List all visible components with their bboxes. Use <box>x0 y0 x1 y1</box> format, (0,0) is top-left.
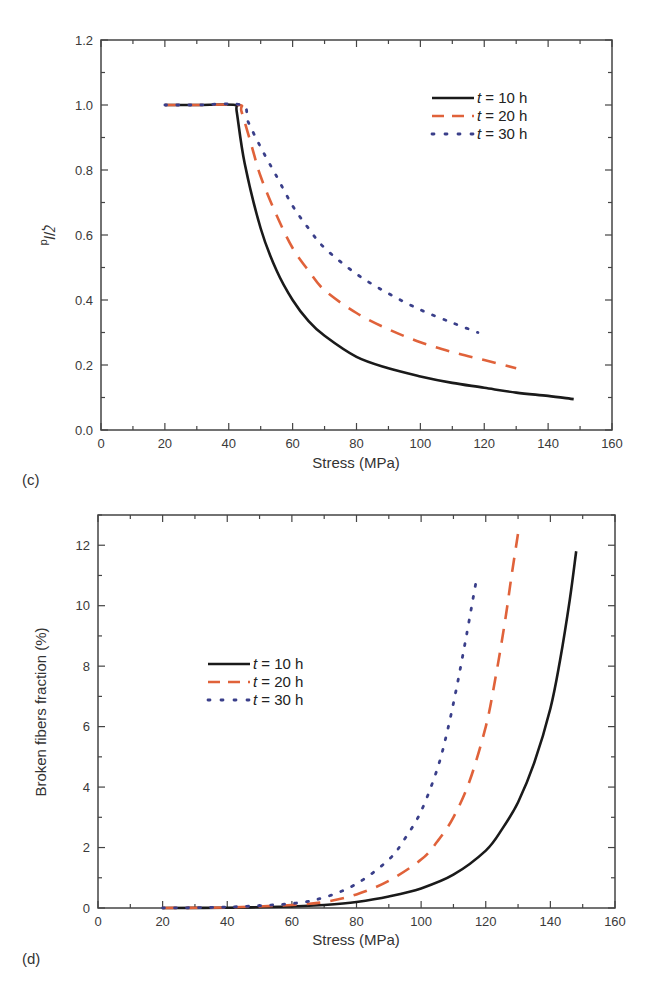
y-tick-label: 0.8 <box>75 163 93 178</box>
chart-d: 020406080100120140160 024681012 t = 10 h… <box>22 515 626 967</box>
series-t-10-h <box>163 551 577 908</box>
y-tick-label: 0.6 <box>75 228 93 243</box>
y-tick-label: 0.2 <box>75 358 93 373</box>
legend: t = 10 ht = 20 ht = 30 h <box>208 655 303 708</box>
plot-frame <box>101 40 612 430</box>
y-axis-ticks: 0.00.20.40.60.81.01.2 <box>75 33 612 438</box>
plot-frame <box>98 515 615 908</box>
x-tick-label: 160 <box>601 436 623 451</box>
figure: 020406080100120140160 0.00.20.40.60.81.0… <box>0 0 659 994</box>
y-tick-label: 4 <box>83 780 90 795</box>
x-tick-label: 0 <box>94 914 101 929</box>
series-lines <box>163 533 577 908</box>
series-t-30-h <box>163 582 477 909</box>
x-tick-label: 120 <box>475 914 497 929</box>
x-tick-label: 100 <box>410 914 432 929</box>
x-tick-label: 100 <box>410 436 432 451</box>
y-tick-label: 0 <box>83 901 90 916</box>
x-axis-title: Stress (MPa) <box>312 931 400 948</box>
legend-label: t = 20 h <box>477 107 527 124</box>
x-axis-title: Stress (MPa) <box>312 454 400 471</box>
x-tick-label: 80 <box>349 914 363 929</box>
y-tick-label: 2 <box>83 840 90 855</box>
y-tick-label: 0.0 <box>75 423 93 438</box>
chart-c: 020406080100120140160 0.00.20.40.60.81.0… <box>22 33 623 489</box>
series-t-20-h <box>165 105 516 369</box>
panel-label-d: (d) <box>22 950 40 967</box>
y-tick-label: 8 <box>83 659 90 674</box>
x-tick-label: 60 <box>285 914 299 929</box>
legend-label: t = 10 h <box>253 655 303 672</box>
x-tick-label: 80 <box>349 436 363 451</box>
legend-label: t = 20 h <box>253 673 303 690</box>
series-t-30-h <box>165 104 478 333</box>
y-axis-title: ζ/ld <box>39 225 58 246</box>
x-tick-label: 160 <box>604 914 626 929</box>
series-lines <box>165 104 574 399</box>
x-tick-label: 20 <box>155 914 169 929</box>
legend-label: t = 30 h <box>253 691 303 708</box>
y-tick-label: 1.2 <box>75 33 93 48</box>
series-t-10-h <box>165 105 574 400</box>
x-tick-label: 60 <box>285 436 299 451</box>
legend-label: t = 30 h <box>477 125 527 142</box>
legend: t = 10 ht = 20 ht = 30 h <box>432 89 527 142</box>
panel-label-c: (c) <box>22 471 40 488</box>
y-tick-label: 10 <box>76 598 90 613</box>
y-tick-label: 12 <box>76 538 90 553</box>
x-tick-label: 40 <box>222 436 236 451</box>
x-tick-label: 120 <box>473 436 495 451</box>
x-tick-label: 140 <box>537 436 559 451</box>
series-t-20-h <box>163 533 518 908</box>
x-tick-label: 0 <box>97 436 104 451</box>
y-tick-label: 6 <box>83 719 90 734</box>
y-axis-ticks: 024681012 <box>76 515 615 916</box>
y-tick-label: 0.4 <box>75 293 93 308</box>
legend-label: t = 10 h <box>477 89 527 106</box>
x-tick-label: 40 <box>220 914 234 929</box>
x-tick-label: 20 <box>158 436 172 451</box>
x-axis-ticks: 020406080100120140160 <box>97 40 622 451</box>
x-tick-label: 140 <box>540 914 562 929</box>
y-axis-title: Broken fibers fraction (%) <box>32 627 49 796</box>
y-tick-label: 1.0 <box>75 98 93 113</box>
